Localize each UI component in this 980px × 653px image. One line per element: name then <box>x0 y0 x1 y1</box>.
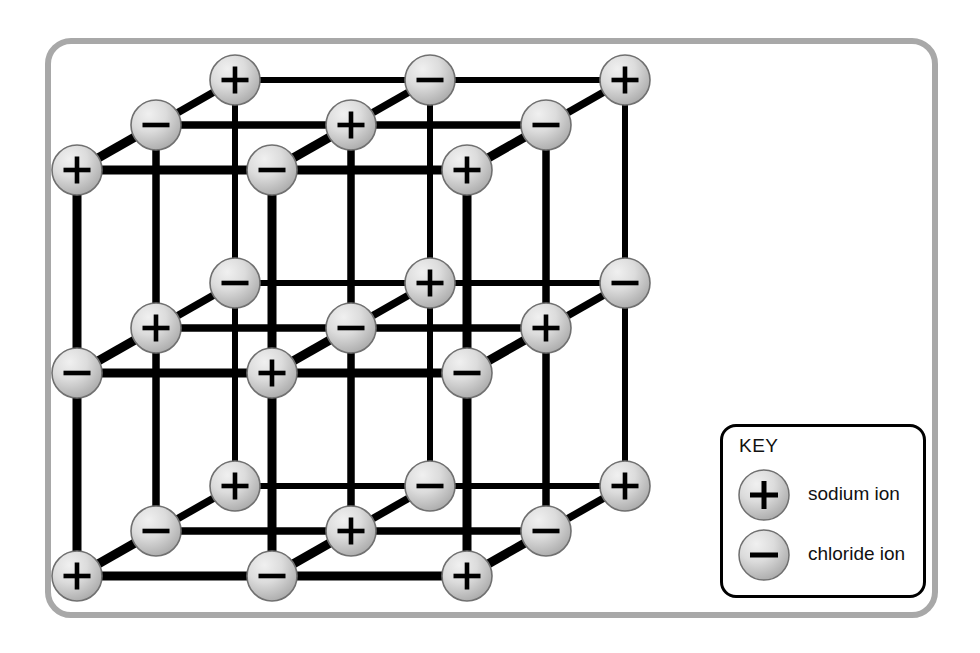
ion-sign-horizontal-bar <box>143 123 170 128</box>
ion-sign-horizontal-bar <box>222 281 249 286</box>
ion-sign-horizontal-bar <box>338 326 365 331</box>
chloride-ion-icon <box>736 527 792 583</box>
ion-sign-vertical-bar <box>233 473 238 500</box>
chloride-ion <box>210 258 260 308</box>
sodium-ion <box>521 303 571 353</box>
chloride-ion <box>442 348 492 398</box>
ion-sign-horizontal-bar <box>259 168 286 173</box>
sodium-ion <box>52 551 102 601</box>
chloride-ion <box>247 551 297 601</box>
ion-sign-horizontal-bar <box>533 123 560 128</box>
chloride-ion <box>247 145 297 195</box>
chloride-ion <box>521 506 571 556</box>
sodium-ion <box>210 55 260 105</box>
ion-sign-horizontal-bar <box>612 281 639 286</box>
sodium-ion <box>326 506 376 556</box>
legend-item-chloride: chloride ion <box>736 527 916 583</box>
ion-sign-vertical-bar <box>465 563 470 590</box>
ion-sign-vertical-bar <box>349 112 354 139</box>
chloride-ion <box>326 303 376 353</box>
chloride-ion <box>521 100 571 150</box>
sodium-ion <box>600 55 650 105</box>
sodium-ion <box>442 145 492 195</box>
ion-sign-vertical-bar <box>75 563 80 590</box>
sodium-ion <box>52 145 102 195</box>
legend-label-chloride: chloride ion <box>808 543 905 565</box>
ion-sign-vertical-bar <box>623 67 628 94</box>
legend-label-sodium: sodium ion <box>808 483 900 505</box>
ion-sign-horizontal-bar <box>454 371 481 376</box>
chloride-ion <box>405 461 455 511</box>
ion-sign-horizontal-bar <box>64 371 91 376</box>
ion-layer <box>52 55 650 601</box>
ion-sign-vertical-bar <box>428 270 433 297</box>
sodium-ion-icon <box>736 467 792 523</box>
ion-sign-vertical-bar <box>623 473 628 500</box>
figure-canvas: KEY sodium ion chloride ion <box>0 0 980 653</box>
sodium-ion <box>131 303 181 353</box>
sodium-ion <box>442 551 492 601</box>
chloride-ion <box>131 506 181 556</box>
legend-item-sodium: sodium ion <box>736 467 916 523</box>
ion-sign-vertical-bar <box>270 360 275 387</box>
chloride-ion <box>52 348 102 398</box>
ion-sign-horizontal-bar <box>533 529 560 534</box>
legend-title: KEY <box>739 435 779 457</box>
sodium-ion <box>600 461 650 511</box>
sodium-ion <box>405 258 455 308</box>
sodium-ion <box>326 100 376 150</box>
ion-sign-vertical-bar <box>75 157 80 184</box>
chloride-ion <box>600 258 650 308</box>
ion-sign-vertical-bar <box>349 518 354 545</box>
ion-sign-vertical-bar <box>233 67 238 94</box>
ion-sign-horizontal-bar <box>417 78 444 83</box>
sodium-ion <box>210 461 260 511</box>
ion-sign-vertical-bar <box>154 315 159 342</box>
chloride-ion <box>405 55 455 105</box>
ion-sign-vertical-bar <box>465 157 470 184</box>
chloride-ion <box>131 100 181 150</box>
sodium-ion <box>247 348 297 398</box>
ion-sign-horizontal-bar <box>259 574 286 579</box>
legend-key-box: KEY sodium ion chloride ion <box>720 424 926 598</box>
ion-sign-vertical-bar <box>544 315 549 342</box>
ion-sign-horizontal-bar <box>417 484 444 489</box>
ion-sign-horizontal-bar <box>143 529 170 534</box>
